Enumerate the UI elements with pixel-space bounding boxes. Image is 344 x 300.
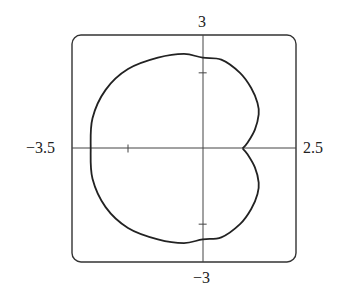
x-min-label: −3.5 <box>26 140 55 156</box>
y-min-label: −3 <box>193 270 210 286</box>
y-max-label: 3 <box>198 14 206 30</box>
x-max-label: 2.5 <box>303 140 323 156</box>
